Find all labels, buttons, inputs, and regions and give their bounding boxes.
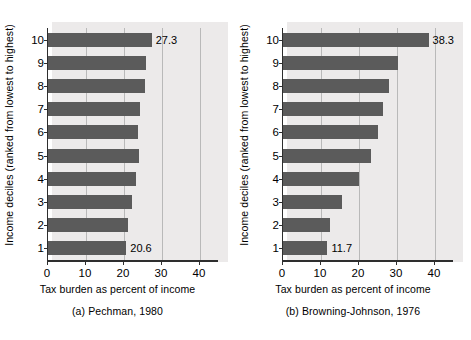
figure: Income deciles (ranked from lowest to hi… (0, 0, 471, 340)
y-tick-label: 6 (38, 125, 44, 139)
x-tick-label: 10 (79, 267, 92, 279)
y-tick-mark (44, 63, 48, 64)
x-tick-mark (161, 260, 162, 265)
y-tick-label: 5 (38, 149, 44, 163)
chart-panel-browning-johnson: Income deciles (ranked from lowest to hi… (235, 0, 471, 340)
x-tick-label: 30 (155, 267, 168, 279)
bar (283, 79, 389, 93)
y-tick-label: 2 (273, 218, 279, 232)
bar (283, 218, 330, 232)
bar (48, 125, 138, 139)
y-tick-label: 5 (273, 149, 279, 163)
x-tick-label: 0 (44, 267, 50, 279)
x-tick-mark (434, 260, 435, 265)
x-tick-mark (85, 260, 86, 265)
bar (283, 172, 359, 186)
x-axis-label: Tax burden as percent of income (0, 283, 235, 295)
bar (48, 149, 139, 163)
bar-row: 9 (283, 56, 398, 70)
bar-row: 1038.3 (283, 33, 454, 47)
y-tick-label: 4 (38, 172, 44, 186)
x-axis-label: Tax burden as percent of income (235, 283, 471, 295)
bar-series: 111.7234567891038.3 (283, 28, 453, 260)
x-tick-mark (358, 260, 359, 265)
bar-row: 7 (283, 102, 383, 116)
x-axis-line (282, 260, 453, 262)
x-tick-label: 10 (314, 267, 327, 279)
y-tick-mark (279, 156, 283, 157)
panel-caption: (a) Pechman, 1980 (0, 305, 235, 317)
plot-frame: 111.7234567891038.3 (282, 28, 453, 260)
bar-row: 4 (48, 172, 136, 186)
plot-frame: 120.6234567891027.3 (47, 28, 218, 260)
x-tick-label: 0 (279, 267, 285, 279)
x-axis-line (47, 260, 218, 262)
bar (48, 218, 128, 232)
y-tick-label: 2 (38, 218, 44, 232)
bar-value-label: 27.3 (156, 33, 177, 47)
bar (48, 79, 145, 93)
bar (283, 149, 371, 163)
bar (283, 241, 327, 255)
y-tick-mark (279, 40, 283, 41)
y-tick-label: 7 (273, 102, 279, 116)
bar-row: 4 (283, 172, 359, 186)
y-tick-mark (44, 179, 48, 180)
y-tick-label: 9 (273, 56, 279, 70)
y-tick-mark (279, 248, 283, 249)
x-tick-label: 40 (193, 267, 206, 279)
bar-row: 5 (283, 149, 371, 163)
y-tick-mark (279, 132, 283, 133)
bar-row: 2 (48, 218, 128, 232)
bar (48, 56, 146, 70)
bar-row: 3 (283, 195, 342, 209)
bar-row: 5 (48, 149, 139, 163)
panel-caption: (b) Browning-Johnson, 1976 (235, 305, 471, 317)
bar-row: 6 (283, 125, 378, 139)
bar (48, 241, 126, 255)
chart-panel-pechman: Income deciles (ranked from lowest to hi… (0, 0, 235, 340)
x-tick-mark (47, 260, 48, 265)
y-tick-label: 4 (273, 172, 279, 186)
plot-area-browning-johnson: 111.7234567891038.3 010203040 (282, 22, 458, 264)
y-tick-label: 7 (38, 102, 44, 116)
bar-row: 1027.3 (48, 33, 177, 47)
y-tick-mark (44, 132, 48, 133)
bar (283, 195, 342, 209)
plot-area-pechman: 120.6234567891027.3 010203040 (47, 22, 223, 264)
bar (48, 195, 132, 209)
bar-row: 8 (283, 79, 389, 93)
y-tick-mark (44, 202, 48, 203)
bar-row: 8 (48, 79, 145, 93)
bar-series: 120.6234567891027.3 (48, 28, 218, 260)
y-tick-mark (279, 86, 283, 87)
y-tick-label: 1 (38, 241, 44, 255)
y-tick-label: 8 (273, 79, 279, 93)
y-tick-label: 6 (273, 125, 279, 139)
bar-row: 6 (48, 125, 138, 139)
x-tick-mark (123, 260, 124, 265)
bar (283, 125, 378, 139)
x-tick-mark (282, 260, 283, 265)
y-tick-label: 1 (273, 241, 279, 255)
bar (283, 102, 383, 116)
y-tick-label: 8 (38, 79, 44, 93)
bar-value-label: 20.6 (130, 241, 151, 255)
y-tick-mark (44, 40, 48, 41)
bar-row: 111.7 (283, 241, 352, 255)
y-tick-mark (44, 248, 48, 249)
y-tick-mark (279, 202, 283, 203)
y-axis-label: Income deciles (ranked from lowest to hi… (2, 10, 16, 260)
y-tick-mark (44, 156, 48, 157)
bar (48, 33, 152, 47)
y-axis-label: Income deciles (ranked from lowest to hi… (237, 10, 251, 260)
x-tick-mark (320, 260, 321, 265)
y-tick-label: 3 (38, 195, 44, 209)
bar (48, 102, 140, 116)
y-tick-mark (44, 225, 48, 226)
x-tick-label: 40 (428, 267, 441, 279)
y-tick-mark (279, 63, 283, 64)
y-tick-label: 3 (273, 195, 279, 209)
x-tick-mark (396, 260, 397, 265)
x-tick-mark (199, 260, 200, 265)
